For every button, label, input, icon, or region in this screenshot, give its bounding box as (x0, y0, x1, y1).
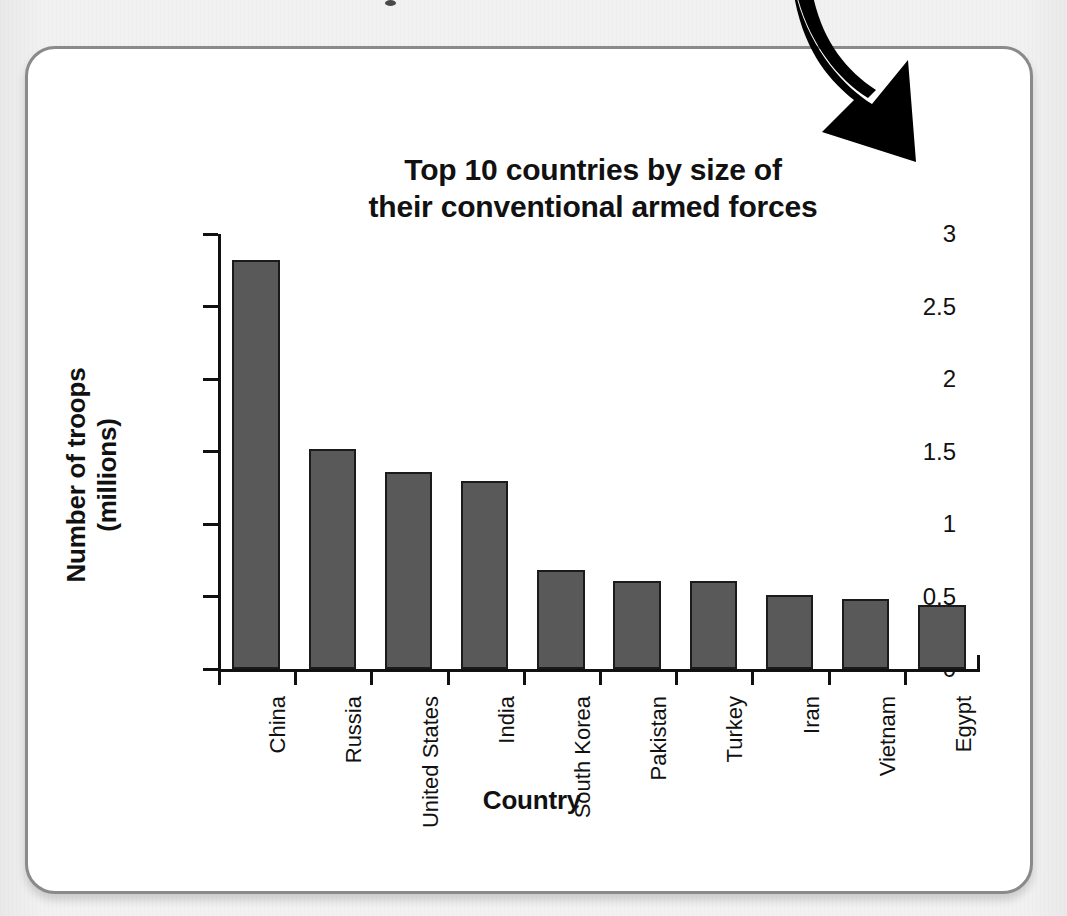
bar (766, 595, 813, 669)
chart-title: Top 10 countries by size of their conven… (273, 152, 913, 225)
chart-title-line-1: Top 10 countries by size of (273, 152, 913, 189)
x-axis-tick (675, 669, 678, 685)
bar (537, 570, 584, 669)
y-axis-tick (203, 233, 218, 236)
y-axis-tick (203, 378, 218, 381)
bar (918, 605, 965, 669)
y-axis-tick (203, 523, 218, 526)
bar (690, 581, 737, 669)
y-axis-line (218, 234, 221, 669)
x-axis-tick-label-text: Iran (799, 696, 825, 734)
x-axis-tick (599, 669, 602, 685)
x-axis-tick-label: Russia (341, 696, 367, 763)
x-axis-tick-label: Egypt (951, 696, 977, 752)
y-axis-label: Number of troops (millions) (61, 325, 123, 625)
bar (461, 481, 508, 670)
x-axis-label: Country (28, 785, 1036, 816)
y-axis-tick-label: 2 (943, 365, 956, 393)
y-axis-tick (203, 305, 218, 308)
x-axis-tick-label-text: Russia (341, 696, 367, 763)
x-axis-tick (294, 669, 297, 685)
bar (232, 260, 279, 669)
x-axis-tick-label: China (265, 696, 291, 753)
x-axis-tick-label-text: Vietnam (875, 696, 901, 776)
y-axis-tick-label: 1.5 (923, 438, 956, 466)
x-axis-tick (828, 669, 831, 685)
x-axis-tick-label: Pakistan (646, 696, 672, 780)
x-axis-tick (218, 669, 221, 685)
y-axis-tick-label: 3 (943, 220, 956, 248)
y-axis-tick (203, 595, 218, 598)
x-axis-tick (370, 669, 373, 685)
bar (613, 581, 660, 669)
chart-title-line-2: their conventional armed forces (273, 189, 913, 226)
bar (309, 449, 356, 669)
x-axis-tick-label: Turkey (722, 696, 748, 762)
x-axis-tick (523, 669, 526, 685)
figure-card: Top 10 countries by size of their conven… (25, 46, 1033, 894)
y-axis-tick-label: 1 (943, 510, 956, 538)
x-axis-tick-label-text: Pakistan (646, 696, 672, 780)
bar (842, 599, 889, 669)
y-axis-tick (203, 450, 218, 453)
x-axis-tick (751, 669, 754, 685)
x-axis-tick (447, 669, 450, 685)
x-axis-tick-label-text: India (494, 696, 520, 744)
x-axis-tick-label: India (494, 696, 520, 744)
x-axis-end-cap (977, 655, 980, 672)
x-axis-tick-label-text: Turkey (722, 696, 748, 762)
x-axis-tick-label: Vietnam (875, 696, 901, 776)
x-axis-tick-label-text: China (265, 696, 291, 753)
y-axis-tick-label: 2.5 (923, 293, 956, 321)
y-axis-tick (203, 668, 218, 671)
x-axis-tick-label: Iran (799, 696, 825, 734)
scan-artifact-speck (385, 0, 396, 6)
bar (385, 472, 432, 669)
plot-area: 00.511.522.53 ChinaRussiaUnited StatesIn… (218, 234, 978, 669)
x-axis-tick (904, 669, 907, 685)
x-axis-tick-label-text: Egypt (951, 696, 977, 752)
